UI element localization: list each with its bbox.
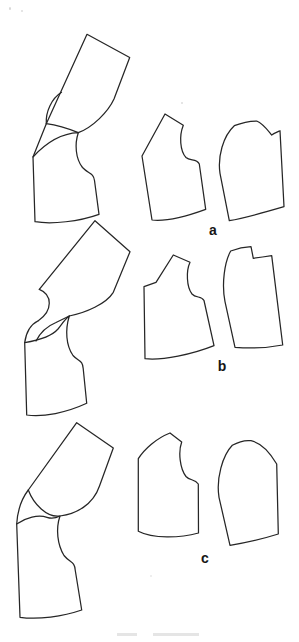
scan-speck <box>181 102 183 104</box>
row-a-back-panel <box>219 121 284 221</box>
scan-speck <box>9 7 11 10</box>
row-b-front-panel <box>144 255 214 359</box>
row-c <box>17 423 279 619</box>
row-c-front-panel <box>138 433 198 537</box>
pattern-diagram <box>0 0 299 642</box>
scan-speck <box>21 10 23 12</box>
row-a-base-piece-outline <box>33 133 99 223</box>
row-a-front-panel <box>142 114 206 220</box>
scan-speck <box>150 575 152 577</box>
row-c-back-panel <box>218 441 278 546</box>
row-a <box>33 34 284 222</box>
row-b-pivot-shoulder-line <box>36 316 69 341</box>
row-a-pivoted-piece-outline <box>46 34 129 132</box>
row-b-base-piece-outline <box>25 316 87 416</box>
row-c-base-piece-outline <box>17 516 82 618</box>
row-a-label: a <box>205 223 221 237</box>
cut-off-caption-remnant <box>153 633 199 636</box>
row-c-pivoted-piece-outline <box>28 423 113 516</box>
row-c-label: c <box>197 551 213 565</box>
row-b-label: b <box>214 359 230 373</box>
row-b-back-panel <box>224 247 283 348</box>
row-a-pivot-connector-line <box>33 124 46 157</box>
cut-off-caption-remnant <box>117 633 137 636</box>
row-b <box>25 221 283 416</box>
scanned-pattern-figure-page: a b c <box>0 0 299 642</box>
row-b-pivot-neck-notch <box>38 289 49 320</box>
row-b-pivoted-piece-outline <box>39 221 130 316</box>
